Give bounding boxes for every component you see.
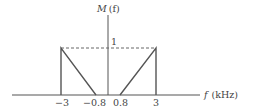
- x-tick-neg-3: −3: [55, 97, 69, 108]
- y-axis-label: M(f): [96, 3, 120, 14]
- x-tick-pos-0-8: 0.8: [113, 97, 128, 108]
- x-tick-pos-3: 3: [153, 97, 159, 108]
- y-tick-one: 1: [111, 36, 117, 47]
- x-tick-neg-0-8: −0.8: [83, 97, 106, 108]
- x-axis-label: f(kHz): [203, 89, 238, 100]
- spectrum-right-lobe: [120, 48, 156, 95]
- spectrum-chart: M(f) 1 −3 −0.8 0.8 3 f(kHz): [0, 0, 254, 112]
- spectrum-left-lobe: [61, 48, 96, 95]
